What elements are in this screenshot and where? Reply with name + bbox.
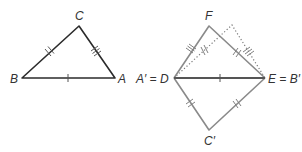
triangle-dfe: [174, 26, 265, 78]
right-figure: A′ = D E = B′ F C′: [135, 9, 301, 148]
label-d: A′ = D: [135, 72, 169, 86]
triangle-dc-prime-e: [174, 78, 265, 130]
label-f: F: [205, 9, 213, 23]
triangle-abc-outline: [22, 26, 115, 78]
label-c-prime: C′: [204, 134, 216, 148]
dotted-triangle: [174, 25, 265, 78]
label-a: A: [117, 72, 126, 86]
label-e: E = B′: [268, 72, 301, 86]
label-c: C: [75, 9, 84, 23]
tick-df: [186, 44, 196, 53]
tick-dotted-right: [243, 47, 254, 56]
congruent-triangles-diagram: B C A: [0, 0, 302, 152]
triangle-abc: B C A: [10, 9, 126, 86]
label-b: B: [10, 72, 18, 86]
tick-bc: [45, 47, 54, 57]
